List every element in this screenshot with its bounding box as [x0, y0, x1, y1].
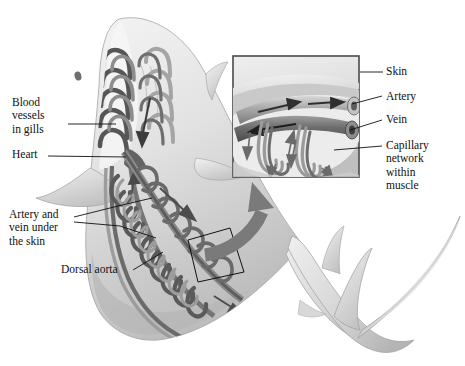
label-vein: Vein	[386, 113, 407, 126]
label-dorsal-aorta: Dorsal aorta	[61, 263, 118, 276]
label-capillary-network-within-muscle: Capillary network within muscle	[386, 139, 429, 193]
inset-magnified-view	[233, 56, 363, 180]
label-skin: Skin	[386, 65, 407, 78]
shark-eye	[74, 71, 83, 82]
label-artery-and-vein-under-the-skin: Artery and vein under the skin	[9, 208, 59, 248]
figure-canvas: Blood vessels in gills Heart Artery and …	[0, 0, 465, 366]
label-heart: Heart	[12, 148, 38, 161]
label-artery: Artery	[386, 90, 416, 103]
label-blood-vessels-in-gills: Blood vessels in gills	[12, 96, 45, 136]
tail-section	[286, 216, 460, 353]
